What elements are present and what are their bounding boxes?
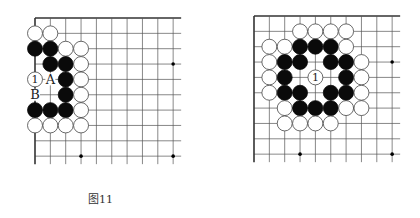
black-stone-icon: [339, 85, 354, 100]
black-stone-icon: [277, 55, 292, 70]
white-stone-icon: [74, 72, 89, 87]
star-point-icon: [171, 154, 175, 158]
white-stone-icon: [308, 24, 323, 39]
white-stone-icon: [74, 118, 89, 133]
black-stone-icon: [277, 85, 292, 100]
black-stone-icon: [308, 39, 323, 54]
go-board-12: 1: [210, 0, 420, 180]
black-stone-icon: [293, 101, 308, 116]
black-stone-icon: [58, 72, 73, 87]
white-stone-icon: [74, 103, 89, 118]
go-board-11: 1AB: [0, 0, 210, 180]
white-stone-icon: [323, 24, 338, 39]
figure-caption-11: 图11: [88, 190, 113, 206]
white-stone-icon: [58, 41, 73, 56]
white-stone-icon: [354, 55, 369, 70]
move-number-label: 1: [32, 73, 39, 86]
white-stone-icon: [354, 85, 369, 100]
go-diagram-figure-12: 1 图12: [210, 0, 420, 218]
star-point-icon: [171, 62, 175, 66]
black-stone-icon: [28, 41, 43, 56]
white-stone-icon: [74, 87, 89, 102]
black-stone-icon: [277, 70, 292, 85]
white-stone-icon: [277, 101, 292, 116]
white-stone-icon: [339, 39, 354, 54]
white-stone-icon: [262, 70, 277, 85]
star-point-icon: [79, 154, 83, 158]
black-stone-icon: [323, 101, 338, 116]
white-stone-icon: [262, 39, 277, 54]
go-diagram-figure-11: 1AB 图11: [0, 0, 210, 218]
black-stone-icon: [323, 55, 338, 70]
black-stone-icon: [58, 87, 73, 102]
white-stone-icon: [74, 57, 89, 72]
white-stone-icon: [277, 116, 292, 131]
white-stone-icon: [339, 24, 354, 39]
black-stone-icon: [43, 57, 58, 72]
black-stone-icon: [43, 41, 58, 56]
white-stone-icon: [323, 116, 338, 131]
black-stone-icon: [293, 55, 308, 70]
black-stone-icon: [339, 55, 354, 70]
black-stone-icon: [293, 85, 308, 100]
white-stone-icon: [354, 101, 369, 116]
white-stone-icon: [308, 116, 323, 131]
star-point-icon: [390, 60, 394, 64]
star-point-icon: [298, 152, 302, 156]
black-stone-icon: [323, 39, 338, 54]
white-stone-icon: [58, 118, 73, 133]
white-stone-icon: [28, 26, 43, 41]
white-stone-icon: [277, 39, 292, 54]
point-label-b: B: [30, 87, 40, 102]
black-stone-icon: [323, 85, 338, 100]
black-stone-icon: [58, 57, 73, 72]
black-stone-icon: [58, 103, 73, 118]
black-stone-icon: [308, 101, 323, 116]
white-stone-icon: [262, 85, 277, 100]
white-stone-icon: [43, 118, 58, 133]
white-stone-icon: [74, 41, 89, 56]
move-number-label: 1: [312, 71, 319, 84]
black-stone-icon: [28, 103, 43, 118]
white-stone-icon: [43, 26, 58, 41]
grid-lines: [35, 18, 181, 164]
black-stone-icon: [293, 39, 308, 54]
black-stone-icon: [43, 103, 58, 118]
white-stone-icon: [28, 118, 43, 133]
white-stone-icon: [339, 101, 354, 116]
white-stone-icon: [262, 55, 277, 70]
point-label-a: A: [45, 72, 56, 87]
white-stone-icon: [293, 24, 308, 39]
white-stone-icon: [354, 70, 369, 85]
white-stone-icon: [293, 116, 308, 131]
star-point-icon: [390, 152, 394, 156]
black-stone-icon: [339, 70, 354, 85]
